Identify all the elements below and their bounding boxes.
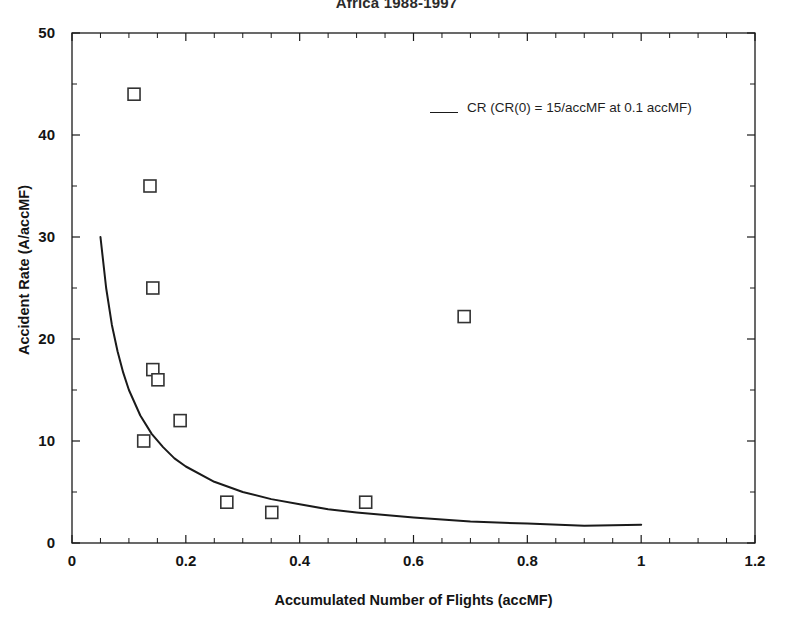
cr-curve bbox=[100, 237, 641, 526]
data-point-markers bbox=[128, 88, 470, 518]
plot-canvas bbox=[0, 0, 793, 627]
legend-label-cr: CR (CR(0) = 15/accMF at 0.1 accMF) bbox=[467, 100, 692, 115]
chart-container: Africa 1988-1997 Accident Rate (A/accMF)… bbox=[0, 0, 793, 627]
legend-line-swatch-icon bbox=[430, 112, 458, 113]
legend: CR (CR(0) = 15/accMF at 0.1 accMF) bbox=[430, 100, 692, 115]
